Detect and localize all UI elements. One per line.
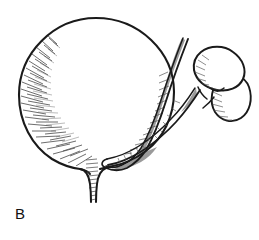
- kidney-group: [194, 47, 251, 123]
- ureter-lower-inner-edge: [107, 88, 195, 159]
- urethra-wall-right: [96, 168, 106, 202]
- anatomical-illustration: [0, 0, 259, 240]
- renal-pelvis-shadow: [181, 88, 197, 112]
- bladder-outline-right: [96, 18, 174, 169]
- figure-panel-b: B: [0, 0, 259, 240]
- panel-label: B: [15, 206, 25, 221]
- renal-hilum-upper: [198, 87, 207, 99]
- bladder-hatching: [21, 34, 169, 166]
